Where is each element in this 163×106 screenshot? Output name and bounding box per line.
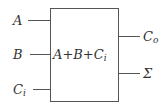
block-label: A+B+Ci: [52, 47, 107, 63]
input-ci-label: Ci: [13, 82, 26, 98]
output-sum-label: Σ: [142, 66, 153, 81]
input-b-label: B: [12, 47, 23, 62]
output-co-label: Co: [143, 29, 159, 45]
input-a-label: A: [12, 13, 22, 28]
full-adder-diagram: A B Ci A+B+Ci Co Σ: [0, 0, 163, 106]
